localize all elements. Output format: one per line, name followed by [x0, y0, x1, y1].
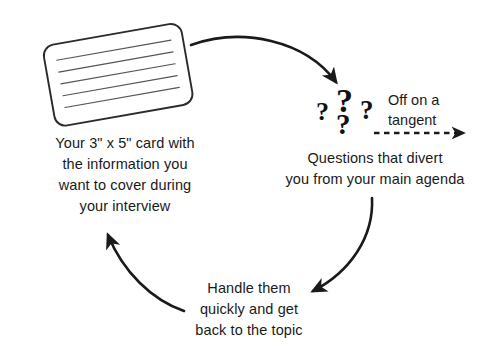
arrow-card-to-questions [191, 37, 336, 82]
diagram-canvas: ? ? ? ? Your 3" x 5" card with the infor… [0, 0, 491, 349]
caption-diverting-questions: Questions that divert you from your main… [262, 148, 488, 190]
caption-handle-them: Handle them quickly and get back to the … [168, 278, 330, 341]
label-off-on-a-tangent: Off on a tangent [388, 90, 484, 130]
index-card-body [42, 22, 194, 127]
index-card [42, 22, 194, 127]
question-mark-right: ? [360, 97, 374, 124]
caption-index-card: Your 3" x 5" card with the information y… [10, 133, 240, 217]
question-mark-bottom: ? [336, 110, 351, 139]
question-mark-left: ? [316, 99, 329, 125]
